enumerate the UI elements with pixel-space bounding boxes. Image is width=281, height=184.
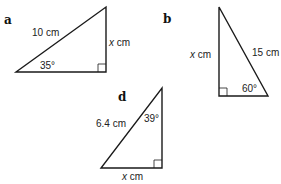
triangle-a: a 10 cm x cm 35° xyxy=(4,7,130,72)
part-label-d: d xyxy=(118,90,127,104)
triangles-diagram: a 10 cm x cm 35° b x cm 15 cm 60° d 6.4 … xyxy=(0,0,281,184)
triangle-a-shape xyxy=(16,7,106,72)
triangle-d: d 6.4 cm 39° x cm xyxy=(96,88,162,182)
base-label-d: x cm xyxy=(121,171,143,182)
side-label-b: x cm xyxy=(189,49,211,60)
part-label-a: a xyxy=(4,13,12,27)
angle-label-b: 60° xyxy=(242,83,257,94)
hypotenuse-label-a: 10 cm xyxy=(32,27,59,38)
hypotenuse-label-b: 15 cm xyxy=(252,47,279,58)
right-angle-marker-d xyxy=(154,160,162,168)
part-label-b: b xyxy=(163,12,171,26)
side-label-a: x cm xyxy=(108,37,130,48)
right-angle-marker-b xyxy=(219,88,227,96)
angle-label-d: 39° xyxy=(144,113,159,124)
hypotenuse-label-d: 6.4 cm xyxy=(96,118,126,129)
triangle-b: b x cm 15 cm 60° xyxy=(163,7,279,96)
right-angle-marker-a xyxy=(98,64,106,72)
angle-label-a: 35° xyxy=(40,60,55,71)
